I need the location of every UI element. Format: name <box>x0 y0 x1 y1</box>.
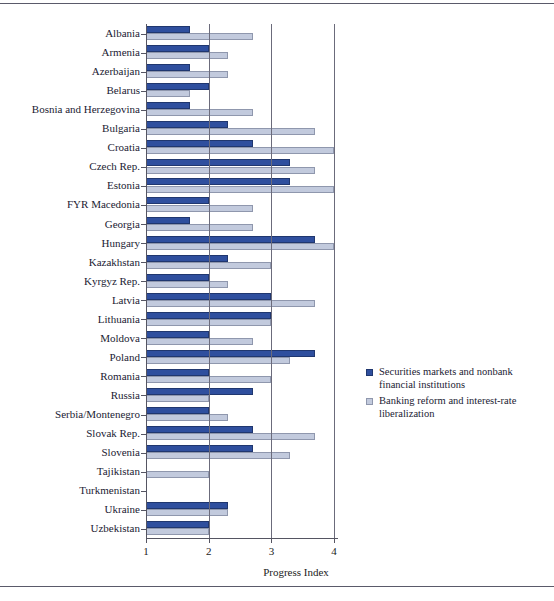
bar-banking <box>146 338 253 345</box>
table-row: Croatia <box>0 138 554 157</box>
bar-banking <box>146 205 253 212</box>
category-label: Belarus <box>0 84 140 96</box>
table-row: Turkmenistan <box>0 481 554 500</box>
bar-securities <box>146 26 190 33</box>
category-label: Croatia <box>0 141 140 153</box>
bar-banking <box>146 433 315 440</box>
legend-swatch-light-icon <box>366 398 373 405</box>
table-row: Armenia <box>0 43 554 62</box>
bar-banking <box>146 357 290 364</box>
table-row: Moldova <box>0 329 554 348</box>
legend-label-securities: Securities markets and nonbank financial… <box>379 366 550 391</box>
legend-label-banking: Banking reform and interest-rate liberal… <box>379 395 550 420</box>
table-row: Lithuania <box>0 310 554 329</box>
bar-banking <box>146 395 209 402</box>
category-label: FYR Macedonia <box>0 198 140 210</box>
category-label: Armenia <box>0 46 140 58</box>
table-row: Kyrgyz Rep. <box>0 272 554 291</box>
gridline <box>334 24 335 538</box>
bar-banking <box>146 528 209 535</box>
gridline <box>271 24 272 538</box>
table-row: Hungary <box>0 234 554 253</box>
table-row: Ukraine <box>0 500 554 519</box>
category-label: Kyrgyz Rep. <box>0 275 140 287</box>
table-row: Poland <box>0 348 554 367</box>
figure-container: AlbaniaArmeniaAzerbaijanBelarusBosnia an… <box>0 0 554 601</box>
x-tick-label: 1 <box>136 545 156 557</box>
x-axis-tick <box>209 538 210 543</box>
bar-banking <box>146 452 290 459</box>
category-label: Bosnia and Herzegovina <box>0 103 140 115</box>
category-label: Czech Rep. <box>0 160 140 172</box>
x-tick-label: 2 <box>199 545 219 557</box>
bar-securities <box>146 121 228 128</box>
bar-banking <box>146 147 334 154</box>
table-row: Belarus <box>0 81 554 100</box>
bar-securities <box>146 502 228 509</box>
x-axis-tick <box>334 538 335 543</box>
legend-entry-banking: Banking reform and interest-rate liberal… <box>366 395 550 420</box>
table-row: Slovak Rep. <box>0 424 554 443</box>
bar-securities <box>146 178 290 185</box>
x-axis-tick <box>271 538 272 543</box>
bar-securities <box>146 140 253 147</box>
table-row: Bulgaria <box>0 119 554 138</box>
table-row: FYR Macedonia <box>0 195 554 214</box>
bar-securities <box>146 197 209 204</box>
bar-securities <box>146 445 253 452</box>
category-label: Uzbekistan <box>0 522 140 534</box>
bar-securities <box>146 159 290 166</box>
bar-securities <box>146 426 253 433</box>
bar-banking <box>146 90 190 97</box>
bar-banking <box>146 71 228 78</box>
category-label: Albania <box>0 27 140 39</box>
bar-securities <box>146 236 315 243</box>
table-row: Kazakhstan <box>0 253 554 272</box>
table-row: Tajikistan <box>0 462 554 481</box>
category-label: Poland <box>0 351 140 363</box>
category-label: Kazakhstan <box>0 256 140 268</box>
category-label: Lithuania <box>0 313 140 325</box>
bar-banking <box>146 414 228 421</box>
category-label: Slovenia <box>0 446 140 458</box>
table-row: Estonia <box>0 176 554 195</box>
x-axis-line <box>146 538 338 539</box>
bar-banking <box>146 281 228 288</box>
legend-entry-securities: Securities markets and nonbank financial… <box>366 366 550 391</box>
bar-securities <box>146 369 209 376</box>
category-label: Turkmenistan <box>0 484 140 496</box>
x-tick-label: 4 <box>324 545 344 557</box>
table-row: Slovenia <box>0 443 554 462</box>
bar-securities <box>146 45 209 52</box>
category-label: Serbia/Montenegro <box>0 408 140 420</box>
category-label: Bulgaria <box>0 122 140 134</box>
category-label: Estonia <box>0 179 140 191</box>
bar-securities <box>146 350 315 357</box>
bar-banking <box>146 109 253 116</box>
table-row: Bosnia and Herzegovina <box>0 100 554 119</box>
bar-securities <box>146 83 209 90</box>
bar-banking <box>146 167 315 174</box>
bar-banking <box>146 33 253 40</box>
bar-banking <box>146 128 315 135</box>
bar-banking <box>146 243 334 250</box>
bottom-rule <box>0 586 554 587</box>
category-label: Romania <box>0 370 140 382</box>
bar-securities <box>146 331 209 338</box>
bar-securities <box>146 102 190 109</box>
category-label: Slovak Rep. <box>0 427 140 439</box>
table-row: Azerbaijan <box>0 62 554 81</box>
table-row: Czech Rep. <box>0 157 554 176</box>
top-rule <box>0 3 554 4</box>
bar-securities <box>146 64 190 71</box>
category-label: Azerbaijan <box>0 65 140 77</box>
bar-securities <box>146 255 228 262</box>
bar-securities <box>146 521 209 528</box>
bar-banking <box>146 471 209 478</box>
chart-legend: Securities markets and nonbank financial… <box>366 366 550 424</box>
table-row: Uzbekistan <box>0 519 554 538</box>
category-label: Hungary <box>0 237 140 249</box>
x-axis-tick <box>146 538 147 543</box>
bar-banking <box>146 509 228 516</box>
bar-banking <box>146 186 334 193</box>
